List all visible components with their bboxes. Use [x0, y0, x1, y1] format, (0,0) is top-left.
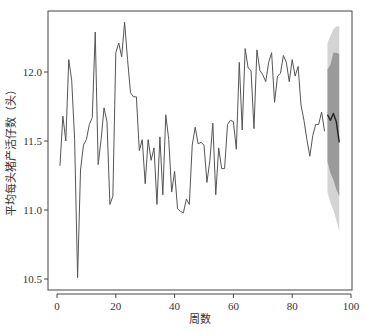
observed-line [60, 22, 325, 277]
x-tick-label: 60 [228, 300, 240, 312]
series-lines [60, 22, 339, 277]
y-axis-title: 平均每头猪产活仔数（头） [4, 84, 18, 216]
x-tick-label: 100 [343, 300, 360, 312]
figure-caption-fragment [60, 327, 320, 334]
forecast-line-chart: 10.511.011.512.0 020406080100 周数 平均每头猪产活… [0, 0, 365, 334]
y-tick-label: 10.5 [23, 273, 43, 285]
y-tick-label: 11.0 [23, 204, 42, 216]
x-tick-label: 40 [169, 300, 181, 312]
x-axis-title: 周数 [189, 313, 211, 326]
plot-frame [48, 11, 352, 290]
x-tick-label: 80 [287, 300, 299, 312]
x-tick-label: 0 [54, 300, 60, 312]
y-axis: 10.511.011.512.0 [23, 66, 48, 285]
y-tick-label: 11.5 [23, 135, 42, 147]
y-tick-label: 12.0 [23, 66, 43, 78]
x-axis: 020406080100 [54, 294, 360, 312]
x-tick-label: 20 [110, 300, 122, 312]
